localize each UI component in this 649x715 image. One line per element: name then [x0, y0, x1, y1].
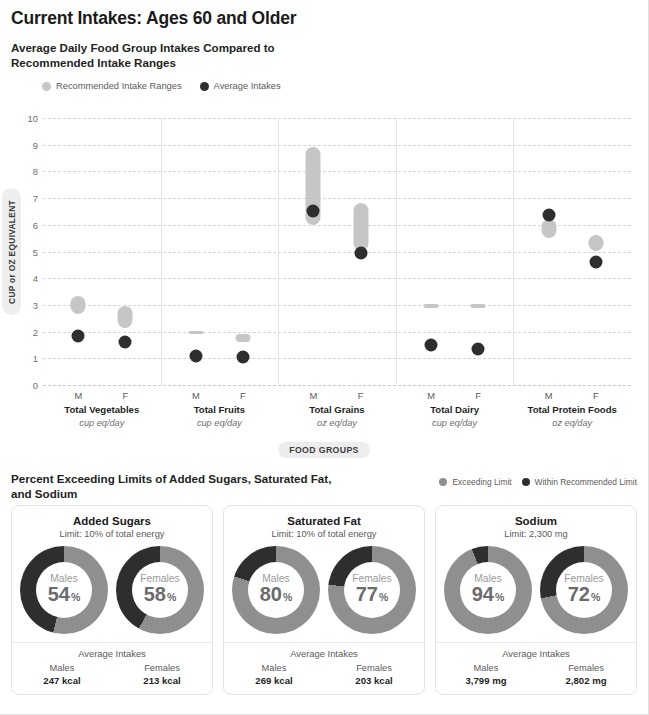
average-value: 203 kcal [324, 675, 424, 686]
donut-chart: Females58% [116, 546, 204, 634]
y-gridline [43, 118, 631, 119]
group-separator [513, 118, 514, 385]
donut-sex-label: Males [474, 573, 501, 584]
sex-axis-label: F [240, 391, 246, 401]
average-columns: Males3,799 mgFemales2,802 mg [436, 662, 636, 686]
average-columns: Males247 kcalFemales213 kcal [12, 662, 212, 686]
legend-item: Average Intakes [200, 81, 281, 91]
average-column: Females203 kcal [324, 662, 424, 686]
average-value: 2,802 mg [536, 675, 636, 686]
x-axis-label: FOOD GROUPS [289, 445, 359, 455]
y-axis-tick-label: 6 [24, 219, 38, 230]
legend-swatch-icon [439, 478, 447, 486]
donut-center: Females58% [132, 562, 188, 618]
food-group-unit: cup eq/day [395, 418, 515, 428]
average-sex-label: Males [436, 662, 536, 675]
donut-percent-value: 94 [472, 584, 494, 605]
percent-symbol: % [283, 587, 292, 608]
donut-percent: 94% [472, 584, 505, 608]
recommended-range-bar [471, 304, 486, 308]
food-group-name: Total Protein Foods [512, 404, 632, 416]
legend-swatch-icon [42, 82, 51, 91]
donut-chart: Males94% [444, 546, 532, 634]
recommended-range-bar [588, 235, 603, 251]
food-group-dot-chart: 012345678910 [0, 105, 649, 405]
donut-percent-value: 54 [48, 584, 70, 605]
donut-sex-label: Females [564, 573, 603, 584]
y-gridline [43, 198, 631, 199]
legend-swatch-icon [200, 82, 209, 91]
average-intakes-label: Average Intakes [12, 648, 212, 659]
food-group-label: Total Grainsoz eq/day [277, 404, 397, 428]
y-gridline [43, 332, 631, 333]
donut-sex-label: Females [352, 573, 391, 584]
average-intake-dot [472, 342, 485, 355]
percent-symbol: % [495, 587, 504, 608]
food-group-name: Total Grains [277, 404, 397, 416]
y-axis-tick-label: 2 [24, 326, 38, 337]
average-column: Females2,802 mg [536, 662, 636, 686]
y-gridline [43, 252, 631, 253]
average-value: 213 kcal [112, 675, 212, 686]
y-axis-tick-label: 1 [24, 353, 38, 364]
y-gridline [43, 305, 631, 306]
donut-center: Females77% [344, 562, 400, 618]
sex-axis-label: F [475, 391, 481, 401]
legend-label: Exceeding Limit [452, 477, 511, 487]
group-separator [396, 118, 397, 385]
donut-percent: 72% [568, 584, 601, 608]
average-column: Males247 kcal [12, 662, 112, 686]
food-group-unit: cup eq/day [42, 418, 162, 428]
legend-label: Recommended Intake Ranges [56, 81, 182, 91]
card-footer: Average IntakesMales269 kcalFemales203 k… [224, 642, 424, 694]
y-gridline [43, 171, 631, 172]
recommended-range-bar [235, 334, 250, 342]
sex-axis-label: M [192, 391, 200, 401]
donut-percent-value: 58 [144, 584, 166, 605]
recommended-range-bar [118, 306, 133, 327]
average-sex-label: Males [12, 662, 112, 675]
donut-center: Males54% [36, 562, 92, 618]
y-axis-tick-label: 10 [24, 113, 38, 124]
y-gridline [43, 358, 631, 359]
limit-card: Added SugarsLimit: 10% of total energyMa… [11, 505, 213, 695]
card-footer: Average IntakesMales247 kcalFemales213 k… [12, 642, 212, 694]
section2-title: Percent Exceeding Limits of Added Sugars… [11, 471, 341, 501]
donut-row: Males94%Females72% [436, 546, 636, 642]
donut-chart: Males54% [20, 546, 108, 634]
average-value: 269 kcal [224, 675, 324, 686]
card-subtitle: Limit: 2,300 mg [436, 529, 636, 539]
y-axis-tick-label: 4 [24, 273, 38, 284]
average-intakes-label: Average Intakes [224, 648, 424, 659]
recommended-range-bar [188, 331, 203, 335]
average-value: 247 kcal [12, 675, 112, 686]
legend-label: Within Recommended Limit [535, 477, 637, 487]
card-subtitle: Limit: 10% of total energy [12, 529, 212, 539]
y-axis-tick-label: 3 [24, 299, 38, 310]
x-axis-label-pill: FOOD GROUPS [278, 442, 370, 458]
section1-title: Average Daily Food Group Intakes Compare… [11, 40, 341, 70]
y-gridline [43, 145, 631, 146]
limit-card: SodiumLimit: 2,300 mgMales94%Females72%A… [435, 505, 637, 695]
y-axis-label: CUP or OZ EQUIVALENT [7, 200, 17, 304]
sex-axis-label: F [358, 391, 364, 401]
recommended-range-bar [424, 304, 439, 308]
percent-symbol: % [591, 587, 600, 608]
food-group-label: Total Fruitscup eq/day [159, 404, 279, 428]
recommended-range-bar [353, 203, 368, 251]
food-group-name: Total Fruits [159, 404, 279, 416]
recommended-range-bar [541, 219, 556, 238]
percent-symbol: % [71, 587, 80, 608]
average-column: Males3,799 mg [436, 662, 536, 686]
donut-sex-label: Females [140, 573, 179, 584]
legend-swatch-icon [522, 478, 530, 486]
average-sex-label: Females [112, 662, 212, 675]
donut-center: Females72% [556, 562, 612, 618]
card-title: Sodium [436, 515, 636, 527]
y-axis-tick-label: 8 [24, 166, 38, 177]
average-column: Females213 kcal [112, 662, 212, 686]
donut-row: Males54%Females58% [12, 546, 212, 642]
sex-axis-label: M [74, 391, 82, 401]
percent-symbol: % [379, 587, 388, 608]
legend-item: Exceeding Limit [439, 477, 511, 487]
